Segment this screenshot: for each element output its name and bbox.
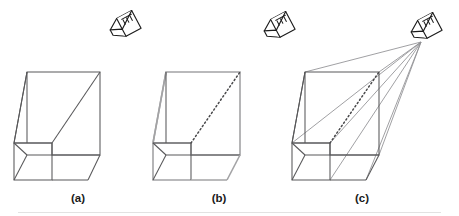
ray-to-wedge-apex	[292, 42, 421, 143]
panel-c-caption: (c)	[355, 192, 369, 204]
ray-to-bottom-front-right	[366, 42, 421, 180]
shape-a-left-slant-edge	[14, 72, 27, 143]
shape-c-box-front-depth-edge	[292, 155, 305, 180]
shape-b-ramp-diagonal-dotted	[191, 72, 240, 143]
shape-a-ramp-diagonal	[52, 72, 100, 143]
ray-to-box-bottom-right	[330, 42, 421, 180]
shape-c-box-left-depth-edge	[292, 143, 305, 155]
panel-b-caption: (b)	[212, 192, 227, 204]
shape-b-bottom-right-slant	[227, 155, 240, 180]
shape-b-left-slant-edge	[153, 72, 166, 143]
viewer-eye-icon-b	[261, 12, 295, 43]
panel-c-projection-rays	[292, 42, 421, 180]
shape-b-box-front-depth-edge	[153, 155, 166, 180]
panel-c-group: (c)	[292, 72, 379, 204]
panel-a-caption: (a)	[71, 192, 85, 204]
ray-to-box-top-right	[330, 42, 421, 143]
shape-a-box-left-depth-edge	[14, 143, 27, 155]
panel-a-group: (a)	[14, 72, 100, 204]
viewer-eye-icon-c	[408, 13, 442, 44]
panel-b-group: (b)	[153, 72, 240, 204]
figure-container: (a) (b)	[0, 0, 459, 216]
viewer-eye-icon-a	[107, 11, 141, 42]
shape-c-bottom-right-slant	[366, 155, 379, 180]
shape-c-left-slant-edge	[292, 72, 305, 143]
shape-a-box-front-depth-edge	[14, 155, 27, 180]
shape-a-bottom-right-slant	[88, 155, 100, 180]
shape-b-box-left-depth-edge	[153, 143, 166, 155]
ray-to-top-back-left	[305, 42, 421, 72]
technical-diagram-canvas: (a) (b)	[0, 0, 459, 216]
